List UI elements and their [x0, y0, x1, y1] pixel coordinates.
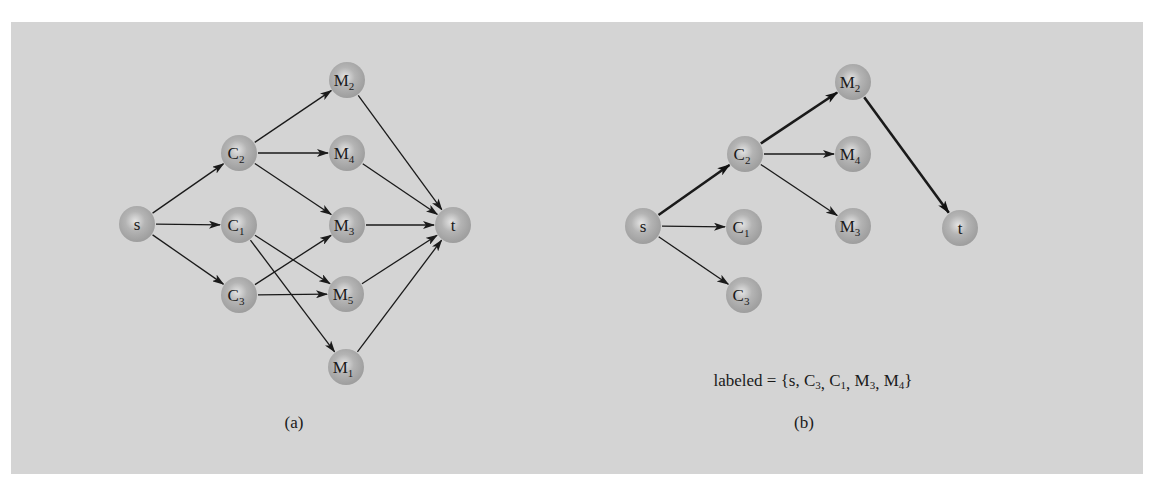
edge-C2-to-M3 [255, 164, 331, 215]
edge-C2-to-M2 [255, 91, 332, 143]
node-M1: M1 [328, 349, 364, 385]
edge-C3-to-M5 [258, 294, 327, 295]
node-M2: M2 [835, 64, 871, 100]
nodes: sC2C1C3M2M4M3M5M1t [119, 62, 471, 385]
edge-s-to-C1 [662, 226, 725, 227]
node-t: t [942, 210, 978, 246]
edge-s-to-C1 [156, 224, 220, 225]
edge-C2-to-M2-path [761, 93, 837, 144]
node-M5: M5 [328, 276, 364, 312]
edge-s-to-C2-path [659, 165, 730, 215]
edge-C1-to-M1 [250, 240, 334, 352]
node-M3: M3 [835, 208, 871, 244]
node-s: s [119, 206, 155, 242]
edges [659, 93, 949, 285]
node-s: s [625, 208, 661, 244]
node-C1: C1 [221, 207, 257, 243]
node-M3: M3 [329, 207, 365, 243]
node-M2: M2 [329, 62, 365, 98]
node-C3: C3 [726, 277, 762, 313]
edge-s-to-C2 [153, 164, 224, 213]
edge-C2-to-M3 [761, 165, 837, 216]
node-M4: M4 [835, 136, 871, 172]
node-label: s [640, 217, 647, 236]
flow-network-diagram: sC2C1C3M2M4M3M5M1t (a) sC2C1C3M2M4M3t la… [0, 0, 1155, 500]
edge-M2-to-t [358, 95, 442, 209]
labeled-set-annotation: labeled = {s, C3, C1, M3, M4} [713, 371, 912, 393]
panel-b: sC2C1C3M2M4M3t labeled = {s, C3, C1, M3,… [625, 64, 978, 432]
node-label: t [958, 219, 963, 238]
node-C2: C2 [221, 135, 257, 171]
caption-b: (b) [794, 413, 814, 432]
edge-M5-to-t [362, 235, 437, 283]
caption-a: (a) [285, 413, 304, 432]
edge-M2-to-t-path [864, 97, 949, 212]
edge-s-to-C3 [153, 235, 224, 284]
nodes: sC2C1C3M2M4M3t [625, 64, 978, 313]
node-label: s [134, 215, 141, 234]
node-M4: M4 [329, 135, 365, 171]
node-C3: C3 [221, 277, 257, 313]
edge-s-to-C3 [659, 237, 729, 285]
edge-M1-to-t [357, 240, 441, 352]
node-C1: C1 [726, 209, 762, 245]
node-t: t [435, 207, 471, 243]
node-C2: C2 [727, 136, 763, 172]
node-label: t [451, 216, 456, 235]
edges [153, 91, 442, 352]
panel-a: sC2C1C3M2M4M3M5M1t (a) [119, 62, 471, 432]
